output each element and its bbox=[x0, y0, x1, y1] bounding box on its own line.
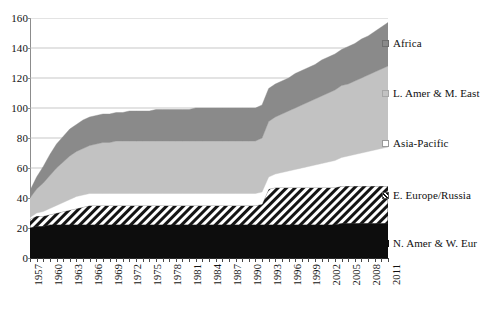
x-tick-mark bbox=[50, 258, 51, 262]
x-tick-mark bbox=[368, 258, 369, 262]
x-tick-label: 2002 bbox=[332, 264, 343, 285]
x-tick-mark bbox=[269, 258, 270, 262]
legend-label: N. Amer & W. Eur bbox=[393, 237, 477, 249]
legend-swatch-asia-pacific bbox=[382, 140, 389, 147]
y-tick-label: 40 bbox=[4, 193, 28, 204]
x-tick-mark bbox=[176, 258, 177, 262]
x-tick-mark bbox=[156, 258, 157, 262]
x-tick-mark bbox=[129, 258, 130, 262]
x-tick-mark bbox=[375, 258, 376, 262]
x-tick-mark bbox=[202, 258, 203, 262]
x-tick-label: 1993 bbox=[273, 264, 284, 285]
x-tick-mark bbox=[335, 258, 336, 262]
x-tick-mark bbox=[222, 258, 223, 262]
x-tick-mark bbox=[37, 258, 38, 262]
x-tick-mark bbox=[328, 258, 329, 262]
y-tick-label: 0 bbox=[4, 253, 28, 264]
x-tick-mark bbox=[282, 258, 283, 262]
x-tick-mark bbox=[295, 258, 296, 262]
x-tick-mark bbox=[289, 258, 290, 262]
x-tick-mark bbox=[388, 258, 389, 262]
x-tick-mark bbox=[30, 258, 31, 262]
y-tick-label: 160 bbox=[4, 13, 28, 24]
x-tick-label: 2005 bbox=[352, 264, 363, 285]
x-tick-label: 1957 bbox=[34, 264, 45, 285]
x-tick-label: 1999 bbox=[312, 264, 323, 285]
x-tick-mark bbox=[63, 258, 64, 262]
x-tick-mark bbox=[361, 258, 362, 262]
x-tick-label: 1987 bbox=[233, 264, 244, 285]
y-tick-label: 80 bbox=[4, 133, 28, 144]
y-tick-label: 20 bbox=[4, 223, 28, 234]
x-tick-mark bbox=[149, 258, 150, 262]
x-tick-mark bbox=[242, 258, 243, 262]
x-tick-mark bbox=[315, 258, 316, 262]
y-tick-label: 140 bbox=[4, 43, 28, 54]
plot-canvas bbox=[30, 18, 388, 258]
x-tick-mark bbox=[123, 258, 124, 262]
x-tick-mark bbox=[229, 258, 230, 262]
legend-item-africa[interactable]: Africa bbox=[382, 36, 422, 50]
x-tick-label: 1975 bbox=[153, 264, 164, 285]
x-tick-mark bbox=[169, 258, 170, 262]
x-tick-mark bbox=[43, 258, 44, 262]
x-tick-label: 1996 bbox=[293, 264, 304, 285]
x-tick-mark bbox=[342, 258, 343, 262]
legend-label: Asia-Pacific bbox=[393, 137, 449, 149]
x-tick-mark bbox=[90, 258, 91, 262]
legend-label: Africa bbox=[393, 37, 422, 49]
x-tick-mark bbox=[103, 258, 104, 262]
x-tick-mark bbox=[189, 258, 190, 262]
x-tick-mark bbox=[275, 258, 276, 262]
x-axis: 1957196019631966196919721975197819811984… bbox=[30, 258, 388, 312]
x-tick-label: 1984 bbox=[213, 264, 224, 285]
x-tick-mark bbox=[348, 258, 349, 262]
legend-swatch-africa bbox=[382, 40, 389, 47]
x-tick-label: 1966 bbox=[94, 264, 105, 285]
x-tick-mark bbox=[249, 258, 250, 262]
legend-item-asia-pacific[interactable]: Asia-Pacific bbox=[382, 136, 449, 150]
legend-swatch-eastern-europe-russia bbox=[382, 192, 389, 199]
x-tick-label: 1978 bbox=[173, 264, 184, 285]
x-tick-mark bbox=[216, 258, 217, 262]
x-tick-mark bbox=[302, 258, 303, 262]
x-tick-mark bbox=[136, 258, 137, 262]
x-tick-mark bbox=[322, 258, 323, 262]
x-tick-label: 1963 bbox=[74, 264, 85, 285]
x-tick-mark bbox=[355, 258, 356, 262]
area-series-group bbox=[30, 23, 388, 259]
x-tick-mark bbox=[143, 258, 144, 262]
legend-swatch-north-america-western-europe bbox=[382, 240, 389, 247]
x-tick-mark bbox=[76, 258, 77, 262]
x-tick-label: 1972 bbox=[133, 264, 144, 285]
x-tick-mark bbox=[163, 258, 164, 262]
y-tick-label: 60 bbox=[4, 163, 28, 174]
x-tick-mark bbox=[70, 258, 71, 262]
y-tick-label: 120 bbox=[4, 73, 28, 84]
x-tick-mark bbox=[96, 258, 97, 262]
x-tick-mark bbox=[57, 258, 58, 262]
chart-legend: AfricaL. Amer & M. EastAsia-PacificE. Eu… bbox=[382, 18, 493, 258]
stacked-area-chart: 020406080100120140160 195719601963196619… bbox=[0, 0, 493, 312]
legend-label: E. Europe/Russia bbox=[393, 189, 471, 201]
y-tick-label: 100 bbox=[4, 103, 28, 114]
x-tick-mark bbox=[83, 258, 84, 262]
x-tick-mark bbox=[116, 258, 117, 262]
legend-swatch-latin-america-middle-east bbox=[382, 90, 389, 97]
y-axis: 020406080100120140160 bbox=[0, 18, 28, 258]
x-tick-mark bbox=[308, 258, 309, 262]
x-tick-mark bbox=[236, 258, 237, 262]
x-tick-mark bbox=[196, 258, 197, 262]
x-tick-label: 1960 bbox=[54, 264, 65, 285]
x-tick-label: 1981 bbox=[193, 264, 204, 285]
x-tick-mark bbox=[255, 258, 256, 262]
legend-item-l-amer-m-east[interactable]: L. Amer & M. East bbox=[382, 86, 480, 100]
x-tick-mark bbox=[262, 258, 263, 262]
x-tick-label: 1990 bbox=[253, 264, 264, 285]
legend-label: L. Amer & M. East bbox=[393, 87, 480, 99]
x-tick-label: 1969 bbox=[114, 264, 125, 285]
plot-area bbox=[30, 18, 388, 258]
legend-item-e-europe-russia[interactable]: E. Europe/Russia bbox=[382, 188, 471, 202]
legend-item-n-amer-w-eur[interactable]: N. Amer & W. Eur bbox=[382, 236, 477, 250]
x-tick-mark bbox=[381, 258, 382, 262]
